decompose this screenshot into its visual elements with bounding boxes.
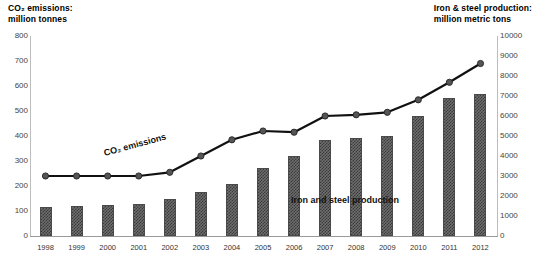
right-tick-1: 9000 — [500, 52, 530, 60]
left-tick-1: 700 — [2, 57, 28, 65]
x-tick-2006: 2006 — [279, 243, 309, 252]
bar-1999 — [71, 206, 83, 236]
right-tick-4: 6000 — [500, 112, 530, 120]
bar-2011 — [443, 98, 455, 236]
left-tick-0: 800 — [2, 32, 28, 40]
co2-marker-1998 — [42, 173, 48, 179]
bar-2003 — [195, 192, 207, 236]
x-tick-2005: 2005 — [248, 243, 278, 252]
bar-1998 — [40, 207, 52, 236]
bar-2012 — [474, 94, 486, 236]
right-axis-line — [497, 36, 498, 236]
co2-marker-2010 — [415, 97, 421, 103]
x-tick-2007: 2007 — [310, 243, 340, 252]
co2-marker-2006 — [291, 129, 297, 135]
x-tick-2000: 2000 — [93, 243, 123, 252]
co2-marker-2008 — [353, 112, 359, 118]
x-tick-2010: 2010 — [403, 243, 433, 252]
x-tick-2004: 2004 — [217, 243, 247, 252]
co2-marker-2004 — [229, 137, 235, 143]
iron-steel-series-annotation: Iron and steel production — [291, 195, 399, 205]
co2-marker-2012 — [477, 60, 483, 66]
right-tick-7: 3000 — [500, 172, 530, 180]
left-tick-2: 600 — [2, 82, 28, 90]
x-tick-2003: 2003 — [186, 243, 216, 252]
co2-marker-2007 — [322, 113, 328, 119]
bar-2005 — [257, 168, 269, 236]
right-tick-10: 0 — [500, 232, 530, 240]
x-tick-2002: 2002 — [155, 243, 185, 252]
x-tick-2001: 2001 — [124, 243, 154, 252]
bar-2000 — [102, 205, 114, 236]
x-tick-2009: 2009 — [372, 243, 402, 252]
bar-2002 — [164, 199, 176, 236]
bar-2004 — [226, 184, 238, 236]
bar-2007 — [319, 140, 331, 236]
co2-marker-2002 — [167, 169, 173, 175]
chart-container: CO₂ emissions: million tonnes Iron & ste… — [0, 0, 536, 260]
right-tick-0: 10000 — [500, 32, 530, 40]
x-tick-1998: 1998 — [31, 243, 61, 252]
right-tick-6: 4000 — [500, 152, 530, 160]
co2-marker-1999 — [74, 173, 80, 179]
left-axis-tick-labels: 8007006005004003002001000 — [2, 0, 28, 260]
right-tick-2: 8000 — [500, 72, 530, 80]
left-tick-4: 400 — [2, 132, 28, 140]
right-tick-9: 1000 — [500, 212, 530, 220]
co2-marker-2009 — [384, 109, 390, 115]
x-tick-2008: 2008 — [341, 243, 371, 252]
co2-marker-2001 — [136, 173, 142, 179]
bar-2008 — [350, 138, 362, 236]
x-tick-2011: 2011 — [434, 243, 464, 252]
left-tick-5: 300 — [2, 157, 28, 165]
co2-marker-2000 — [105, 173, 111, 179]
left-tick-7: 100 — [2, 207, 28, 215]
x-tick-1999: 1999 — [62, 243, 92, 252]
plot-area — [30, 36, 496, 236]
bar-2001 — [133, 204, 145, 236]
x-tick-2012: 2012 — [465, 243, 495, 252]
left-tick-8: 0 — [2, 232, 28, 240]
bar-2009 — [381, 136, 393, 236]
left-tick-3: 500 — [2, 107, 28, 115]
right-axis-tick-labels: 1000090008000700060005000400030002000100… — [500, 0, 534, 260]
right-tick-8: 2000 — [500, 192, 530, 200]
left-tick-6: 200 — [2, 182, 28, 190]
x-axis-baseline — [30, 236, 498, 237]
co2-marker-2005 — [260, 128, 266, 134]
co2-marker-2003 — [198, 153, 204, 159]
co2-marker-2011 — [446, 79, 452, 85]
right-tick-3: 7000 — [500, 92, 530, 100]
right-tick-5: 5000 — [500, 132, 530, 140]
bar-2010 — [412, 116, 424, 236]
